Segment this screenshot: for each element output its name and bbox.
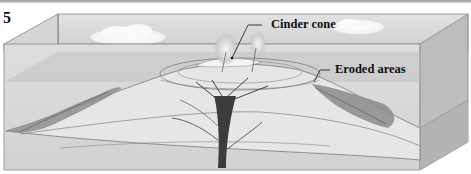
label-cinder-cone: Cinder cone — [271, 17, 336, 32]
volcano-block-diagram — [0, 0, 471, 174]
label-eroded-areas: Eroded areas — [335, 62, 406, 77]
